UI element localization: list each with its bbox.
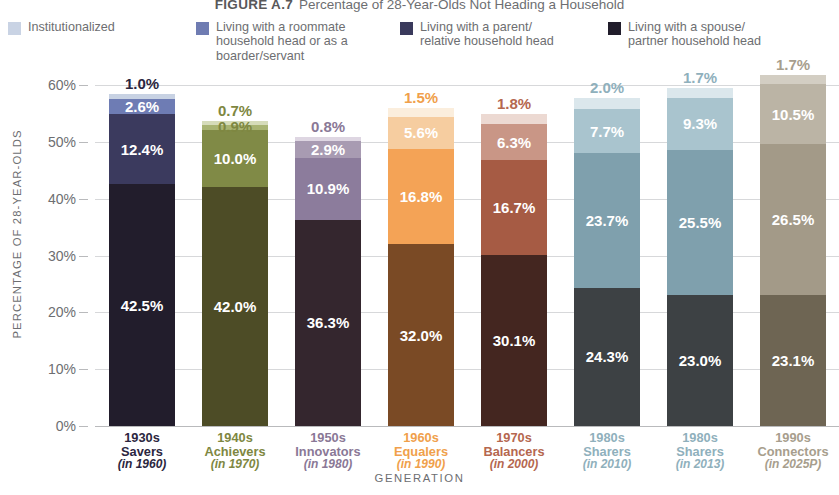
legend-item-label: Living with a spouse/ partner household … [628, 20, 761, 49]
bar-segment-inst[interactable] [760, 75, 826, 85]
plot-area: 42.5%12.4%2.6%1.0%42.0%10.0%0.7%0.9%36.3… [95, 85, 839, 426]
legend-swatch-icon [400, 22, 413, 35]
stacked-bar[interactable]: 30.1%16.7%6.3%1.8% [481, 85, 547, 426]
bar-segment-parent[interactable]: 26.5% [760, 144, 826, 295]
bar-segment-inst[interactable] [667, 88, 733, 98]
y-axis-tick-mark [79, 369, 88, 370]
category-decade: 1970s [462, 431, 566, 445]
stacked-bar[interactable]: 42.0%10.0%0.7%0.9% [202, 85, 268, 426]
y-axis-tick-label: 50% [48, 134, 76, 150]
y-axis-tick-label: 30% [48, 248, 76, 264]
category-decade: 1950s [276, 431, 380, 445]
legend-item-parent: Living with a parent/ relative household… [400, 20, 600, 49]
bar-segment-roommate[interactable]: 2.6% [109, 99, 175, 114]
stacked-bar[interactable]: 24.3%23.7%7.7%2.0% [574, 85, 640, 426]
x-axis-category-1970s: 1970sBalancers(in 2000) [462, 431, 566, 472]
category-period: (in 2000) [462, 458, 566, 472]
x-axis-category-1960s: 1960sEqualers(in 1990) [369, 431, 473, 472]
y-axis-tick-mark [79, 256, 88, 257]
category-period: (in 1990) [369, 458, 473, 472]
category-period: (in 1970) [183, 458, 287, 472]
legend-swatch-icon [608, 22, 621, 35]
category-period: (in 2013) [648, 458, 752, 472]
bar-segment-parent[interactable]: 16.7% [481, 160, 547, 255]
bar-segment-roommate[interactable]: 10.5% [760, 84, 826, 144]
category-decade: 1960s [369, 431, 473, 445]
figure-title-row: FIGURE A.7Percentage of 28-Year-Olds Not… [0, 0, 839, 12]
bar-segment-inst[interactable] [109, 94, 175, 100]
category-period: (in 1980) [276, 458, 380, 472]
category-name: Connectors [741, 445, 839, 459]
x-axis-category-1950s: 1950sInnovators(in 1980) [276, 431, 380, 472]
y-axis-tick-mark [79, 312, 88, 313]
stacked-bar[interactable]: 32.0%16.8%5.6%1.5% [388, 85, 454, 426]
bar-segment-roommate[interactable]: 2.9% [295, 141, 361, 157]
bar-top-value-label: 1.8% [454, 95, 574, 112]
bar-segment-parent[interactable]: 12.4% [109, 114, 175, 184]
legend-item-label: Living with a roommate household head or… [216, 20, 348, 63]
legend-item-spouse: Living with a spouse/ partner household … [608, 20, 839, 49]
y-axis-tick-mark [79, 199, 88, 200]
bar-segment-roommate[interactable]: 5.6% [388, 117, 454, 149]
grid-line [95, 426, 839, 427]
legend-item-label: Institutionalized [28, 20, 115, 34]
bar-segment-inst[interactable] [295, 137, 361, 142]
bar-segment-roommate[interactable]: 6.3% [481, 124, 547, 160]
category-name: Innovators [276, 445, 380, 459]
stacked-bar[interactable]: 23.1%26.5%10.5%1.7% [760, 85, 826, 426]
y-axis-tick-mark [79, 142, 88, 143]
category-name: Balancers [462, 445, 566, 459]
bar-segment-spouse[interactable]: 23.1% [760, 295, 826, 426]
x-axis-category-1980s-2013: 1980sSharers(in 2013) [648, 431, 752, 472]
category-name: Equalers [369, 445, 473, 459]
bar-top-value-label: 1.0% [82, 75, 202, 92]
y-axis-title: PERCENTAGE OF 28-YEAR-OLDS [11, 84, 23, 384]
bar-segment-inst[interactable] [574, 98, 640, 109]
x-axis-category-1930s: 1930sSavers(in 1960) [90, 431, 194, 472]
category-decade: 1940s [183, 431, 287, 445]
x-axis-category-1940s: 1940sAchievers(in 1970) [183, 431, 287, 472]
stacked-bar[interactable]: 36.3%10.9%2.9%0.8% [295, 85, 361, 426]
category-name: Sharers [648, 445, 752, 459]
bar-segment-spouse[interactable]: 24.3% [574, 288, 640, 426]
bar-segment-roommate[interactable]: 9.3% [667, 98, 733, 151]
stacked-bar[interactable]: 23.0%25.5%9.3%1.7% [667, 85, 733, 426]
bar-segment-spouse[interactable]: 36.3% [295, 220, 361, 426]
bar-top-value-label: 1.7% [733, 56, 839, 73]
figure-a7-chart: FIGURE A.7Percentage of 28-Year-Olds Not… [0, 0, 839, 495]
category-decade: 1980s [555, 431, 659, 445]
category-decade: 1990s [741, 431, 839, 445]
bar-segment-inst[interactable] [388, 108, 454, 117]
x-axis-category-1980s-2010: 1980sSharers(in 2010) [555, 431, 659, 472]
legend-item-roommate: Living with a roommate household head or… [196, 20, 392, 63]
y-axis-tick-label: 0% [56, 418, 76, 434]
category-decade: 1930s [90, 431, 194, 445]
page-title: Percentage of 28-Year-Olds Not Heading a… [299, 0, 624, 12]
bar-segment-inst[interactable] [481, 114, 547, 124]
bar-segment-spouse[interactable]: 23.0% [667, 295, 733, 426]
y-axis-tick-label: 20% [48, 304, 76, 320]
category-name: Achievers [183, 445, 287, 459]
legend-swatch-icon [196, 22, 209, 35]
y-axis-tick-mark [79, 426, 88, 427]
stacked-bar[interactable]: 42.5%12.4%2.6%1.0% [109, 85, 175, 426]
legend-item-label: Living with a parent/ relative household… [420, 20, 554, 49]
bar-segment-parent[interactable]: 10.9% [295, 158, 361, 220]
bar-segment-spouse[interactable]: 42.5% [109, 184, 175, 426]
y-axis-tick-label: 60% [48, 77, 76, 93]
bar-segment-spouse[interactable]: 30.1% [481, 255, 547, 426]
bar-segment-parent[interactable]: 10.0% [202, 130, 268, 187]
bar-segment-spouse[interactable]: 42.0% [202, 187, 268, 426]
y-axis-tick-label: 40% [48, 191, 76, 207]
bar-top-value-label: 0.8% [268, 118, 388, 135]
category-decade: 1980s [648, 431, 752, 445]
legend-item-institutionalized: Institutionalized [8, 20, 115, 35]
y-axis-tick-label: 10% [48, 361, 76, 377]
bar-segment-spouse[interactable]: 32.0% [388, 244, 454, 426]
category-name: Savers [90, 445, 194, 459]
legend-swatch-icon [8, 22, 21, 35]
bar-segment-roommate[interactable]: 7.7% [574, 109, 640, 153]
bar-segment-parent[interactable]: 16.8% [388, 149, 454, 244]
bar-segment-parent[interactable]: 25.5% [667, 150, 733, 295]
bar-segment-parent[interactable]: 23.7% [574, 153, 640, 288]
